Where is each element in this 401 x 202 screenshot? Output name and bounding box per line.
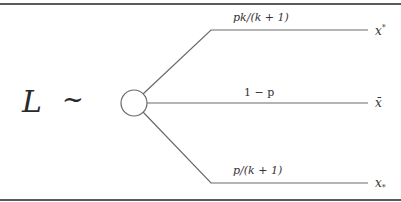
distributed-as-symbol: ~ — [62, 84, 84, 114]
outcome-top-mark: * — [382, 23, 386, 32]
branch-top-line — [143, 30, 368, 94]
branch-top-probability: pk/(k + 1) — [233, 11, 289, 24]
outcome-top-var: x — [375, 24, 382, 38]
outcome-top-label: x* — [375, 23, 386, 38]
outcome-middle-label: x̄ — [375, 96, 382, 110]
lottery-symbol: L — [22, 84, 42, 119]
outcome-bottom-mark: * — [382, 183, 386, 192]
lottery-tree — [0, 0, 401, 202]
branch-middle-probability: 1 − p — [244, 86, 274, 99]
branch-bottom-probability: p/(k + 1) — [233, 164, 282, 177]
outcome-bottom-label: x* — [375, 176, 386, 192]
outcome-bottom-var: x — [375, 176, 382, 190]
